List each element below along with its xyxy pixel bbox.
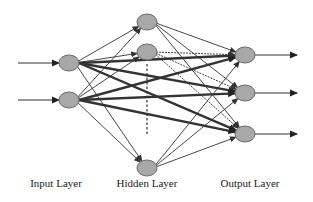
output-node [235,126,255,142]
input-output-edge [79,55,235,63]
input-hidden-edge [75,100,140,162]
output-node [235,85,255,101]
input-layer-label: Input Layer [30,177,82,189]
input-node [59,55,79,71]
output-layer-label: Output Layer [221,177,280,189]
hidden-node [137,14,157,30]
input-hidden-edge [75,26,139,63]
network-graph [0,0,313,202]
output-node [235,47,255,63]
hidden-node [137,44,157,60]
hidden-node [137,160,157,176]
neural-network-diagram: Input Layer Hidden Layer Output Layer [0,0,313,202]
nodes [59,14,255,176]
input-node [59,92,79,108]
hidden-output-edge [153,99,238,168]
hidden-layer-label: Hidden Layer [117,177,178,189]
